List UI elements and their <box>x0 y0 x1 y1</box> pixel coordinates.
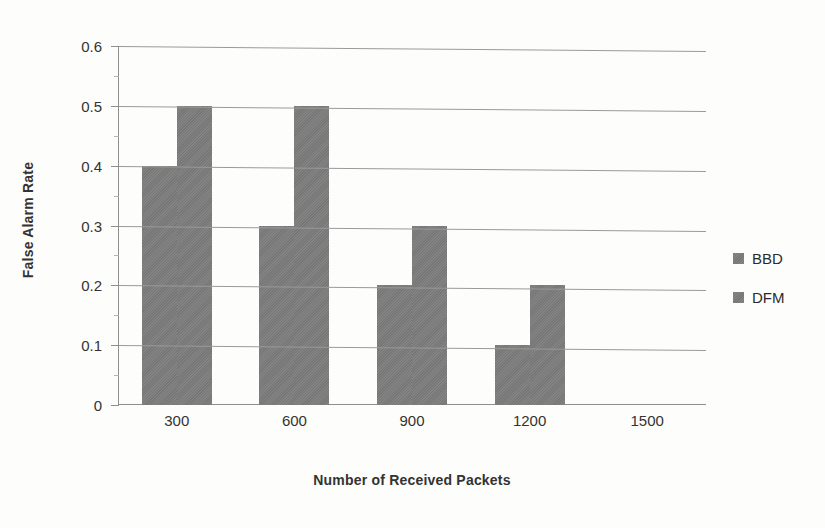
y-axis-tick <box>111 46 119 47</box>
y-axis-title-label: False Alarm Rate <box>20 162 36 278</box>
legend-swatch-icon <box>733 253 744 264</box>
x-axis-tick-label: 1500 <box>631 412 664 429</box>
x-axis-title: Number of Received Packets <box>118 472 706 488</box>
y-axis-title: False Alarm Rate <box>8 0 48 440</box>
plot-area <box>118 46 706 405</box>
y-axis-tick <box>111 226 119 227</box>
y-axis-minor-tick <box>114 136 119 137</box>
y-axis-tick <box>111 106 119 107</box>
legend-label: DFM <box>752 289 785 306</box>
bar-bbd-600 <box>259 226 294 406</box>
y-axis-minor-tick <box>114 315 119 316</box>
y-axis-tick-label: 0.3 <box>81 217 102 234</box>
y-axis-tick-label: 0.2 <box>81 277 102 294</box>
legend-item-dfm[interactable]: DFM <box>733 289 785 306</box>
y-axis-minor-tick <box>114 76 119 77</box>
legend-swatch-icon <box>733 292 744 303</box>
bar-group <box>236 46 354 405</box>
bar-group <box>471 46 589 405</box>
y-axis-tick <box>111 285 119 286</box>
x-axis-tick-label: 900 <box>399 412 424 429</box>
y-axis-tick <box>111 345 119 346</box>
y-axis-tick <box>111 405 119 406</box>
bar-bbd-1200 <box>495 345 530 405</box>
y-axis-tick-label: 0.1 <box>81 337 102 354</box>
bar-group <box>588 46 706 405</box>
x-axis-tick-label: 1200 <box>513 412 546 429</box>
bar-bbd-900 <box>377 285 412 405</box>
y-axis-tick-label: 0.6 <box>81 38 102 55</box>
y-axis-tick-label: 0.5 <box>81 97 102 114</box>
y-axis-tick <box>111 166 119 167</box>
y-axis-tick-label: 0 <box>94 397 102 414</box>
x-axis-tick-label: 300 <box>164 412 189 429</box>
bar-dfm-300 <box>177 106 212 405</box>
y-axis-tick-labels: 0.60.50.40.30.20.10 <box>44 0 106 440</box>
legend-label: BBD <box>752 250 783 267</box>
bar-dfm-1200 <box>530 285 565 405</box>
bar-dfm-600 <box>294 106 329 405</box>
bar-series-container <box>118 46 706 405</box>
x-axis-tick-labels: 30060090012001500 <box>118 412 706 446</box>
bar-dfm-900 <box>412 226 447 406</box>
y-axis-minor-tick <box>114 196 119 197</box>
bar-chart: False Alarm Rate 0.60.50.40.30.20.10 300… <box>0 0 825 528</box>
x-axis-tick-label: 600 <box>282 412 307 429</box>
bar-group <box>353 46 471 405</box>
y-axis-tick-label: 0.4 <box>81 157 102 174</box>
legend-item-bbd[interactable]: BBD <box>733 250 785 267</box>
legend: BBDDFM <box>733 250 785 306</box>
y-axis-minor-tick <box>114 255 119 256</box>
y-axis-minor-tick <box>114 375 119 376</box>
